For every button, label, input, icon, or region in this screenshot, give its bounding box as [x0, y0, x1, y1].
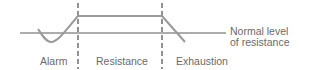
stage-label-alarm: Alarm	[40, 56, 67, 67]
stage-label-resistance: Resistance	[96, 56, 148, 67]
baseline-label: Normal level of resistance	[230, 26, 290, 48]
stage-label-exhaustion: Exhaustion	[176, 56, 228, 67]
baseline-label-line2: of resistance	[230, 37, 290, 48]
resistance-curve	[38, 16, 185, 42]
